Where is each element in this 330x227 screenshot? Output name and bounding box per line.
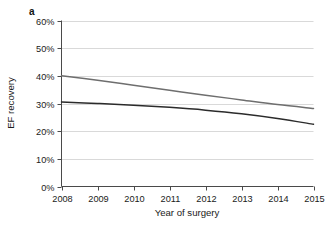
series-line-lower-line [62, 102, 314, 124]
x-tick-label: 2008 [52, 194, 72, 204]
y-tick-label: 20% [36, 127, 54, 137]
y-axis-title: EF recovery [5, 77, 16, 129]
y-axis-ticks [58, 22, 62, 188]
x-axis-tick-labels: 20082009201020112012201320142015 [52, 194, 324, 204]
y-tick-label: 40% [36, 72, 54, 82]
x-axis-title: Year of surgery [155, 207, 220, 218]
y-tick-label: 60% [36, 17, 54, 27]
x-tick-label: 2012 [196, 194, 216, 204]
y-tick-label: 30% [36, 100, 54, 110]
y-tick-label: 0% [41, 183, 54, 193]
x-tick-label: 2013 [232, 194, 252, 204]
figure-panel-a: a 0%10%20%30%40%50%60% 20082009201020112… [0, 0, 330, 227]
x-tick-label: 2015 [304, 194, 324, 204]
x-tick-label: 2010 [124, 194, 144, 204]
y-axis-tick-labels: 0%10%20%30%40%50%60% [36, 17, 54, 193]
data-series-group [62, 76, 314, 124]
y-tick-label: 10% [36, 155, 54, 165]
x-axis-ticks [63, 187, 315, 191]
y-tick-label: 50% [36, 44, 54, 54]
x-tick-label: 2014 [268, 194, 288, 204]
gridlines [62, 22, 314, 160]
ef-recovery-line-chart: 0%10%20%30%40%50%60% 2008200920102011201… [0, 0, 330, 227]
panel-label: a [29, 6, 35, 17]
x-tick-label: 2011 [161, 194, 181, 204]
x-tick-label: 2009 [88, 194, 108, 204]
